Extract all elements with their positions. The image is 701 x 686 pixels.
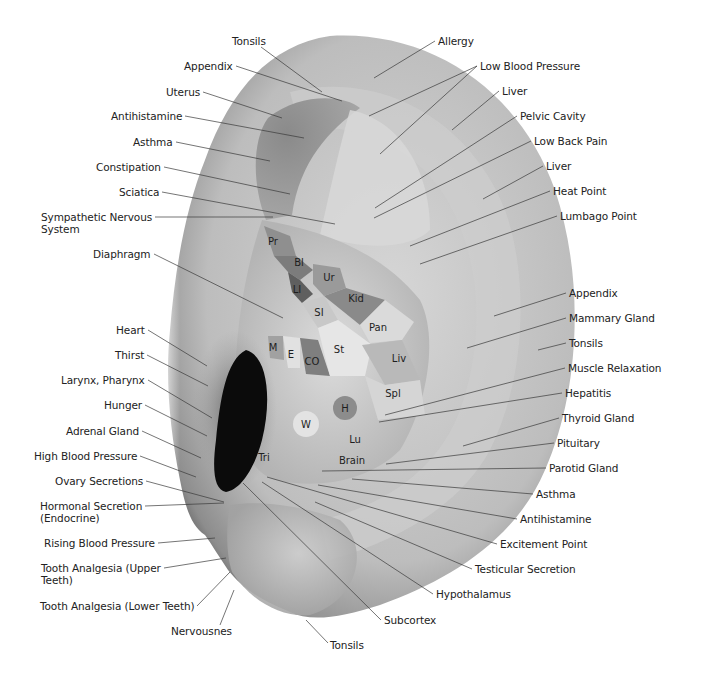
label-constipation: Constipation (96, 161, 161, 173)
zone-label-brain: Brain (339, 455, 365, 466)
label-pituitary: Pituitary (557, 437, 600, 449)
zone-label-ur: Ur (323, 272, 334, 283)
label-tooth-lower: Tooth Analgesia (Lower Teeth) (40, 600, 194, 612)
zone-label-st: St (334, 344, 344, 355)
label-tonsils-right: Tonsils (569, 337, 603, 349)
label-pelvic: Pelvic Cavity (520, 110, 586, 122)
label-asthma-lower: Asthma (536, 488, 576, 500)
label-tonsils-bottom: Tonsils (330, 639, 364, 651)
label-antihistamine-lower: Antihistamine (520, 513, 591, 525)
label-hepatitis: Hepatitis (565, 387, 611, 399)
zone-label-pan: Pan (369, 322, 387, 333)
label-allergy: Allergy (438, 35, 474, 47)
label-sympathetic: Sympathetic NervousSystem (41, 211, 152, 235)
label-antihistamine-upper: Antihistamine (111, 110, 182, 122)
zone-label-m: M (269, 342, 278, 353)
label-excitement: Excitement Point (500, 538, 587, 550)
label-ovary: Ovary Secretions (55, 475, 143, 487)
label-adrenal: Adrenal Gland (66, 425, 139, 437)
label-rising-bp: Rising Blood Pressure (44, 537, 155, 549)
zone-label-w: W (301, 419, 311, 430)
label-low-back: Low Back Pain (534, 135, 607, 147)
label-tonsils-top: Tonsils (232, 35, 266, 47)
label-sciatica: Sciatica (119, 186, 159, 198)
label-larynx: Larynx, Pharynx (61, 374, 145, 386)
label-thyroid: Thyroid Gland (562, 412, 634, 424)
zone-label-li: LI (293, 284, 302, 295)
label-muscle: Muscle Relaxation (568, 362, 661, 374)
zone-label-co: CO (305, 356, 320, 367)
label-appendix-right: Appendix (569, 287, 618, 299)
label-parotid: Parotid Gland (549, 462, 618, 474)
ear-reflexology-diagram: TonsilsAppendixUterusAntihistamineAsthma… (0, 0, 701, 686)
zone-label-h: H (341, 403, 349, 414)
zone-label-lu: Lu (349, 434, 361, 445)
label-uterus: Uterus (166, 86, 200, 98)
label-hunger: Hunger (104, 399, 142, 411)
zone-label-si: SI (314, 307, 323, 318)
label-lumbago: Lumbago Point (560, 210, 637, 222)
label-high-bp: High Blood Pressure (34, 450, 137, 462)
label-heat: Heat Point (553, 185, 606, 197)
zone-label-e: E (288, 349, 294, 360)
leader-line-tooth-lower (197, 572, 230, 606)
label-tooth-upper: Tooth Analgesia (UpperTeeth) (41, 562, 161, 586)
leader-line-nervousnes (220, 590, 234, 625)
label-low-bp: Low Blood Pressure (480, 60, 580, 72)
label-subcortex: Subcortex (384, 614, 436, 626)
leader-line-tonsils-bottom (306, 620, 328, 643)
zone-label-liv: Liv (392, 353, 406, 364)
label-heart: Heart (116, 324, 145, 336)
label-hormonal: Hormonal Secretion(Endocrine) (40, 500, 142, 524)
label-liver-mid: Liver (546, 160, 571, 172)
label-hypothalamus: Hypothalamus (436, 588, 511, 600)
zone-label-bl: Bl (294, 257, 304, 268)
ear-lobe (227, 503, 357, 615)
label-asthma-upper: Asthma (133, 136, 173, 148)
label-liver-upper: Liver (502, 85, 527, 97)
label-testicular: Testicular Secretion (475, 563, 576, 575)
label-diaphragm: Diaphragm (93, 248, 151, 260)
label-mammary: Mammary Gland (569, 312, 655, 324)
zone-label-pr: Pr (268, 236, 278, 247)
zone-label-kid: Kid (348, 293, 364, 304)
zone-label-spl: Spl (385, 388, 400, 399)
zone-label-tri: Tri (258, 452, 270, 463)
label-appendix-top: Appendix (184, 60, 233, 72)
label-nervousnes: Nervousnes (171, 625, 232, 637)
label-thirst: Thirst (115, 349, 144, 361)
